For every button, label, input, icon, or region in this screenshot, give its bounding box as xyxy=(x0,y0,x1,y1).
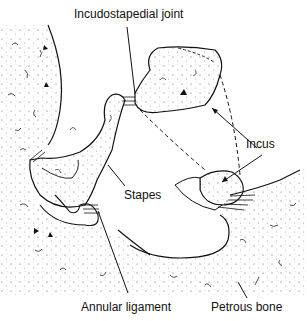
label-incudostapedial-joint: Incudostapedial joint xyxy=(74,8,183,20)
incus xyxy=(135,47,222,113)
label-stapes: Stapes xyxy=(124,189,161,201)
label-incus: Incus xyxy=(246,138,275,150)
label-annular-ligament: Annular ligament xyxy=(81,301,171,313)
leader-incudostapedial-joint xyxy=(127,27,135,94)
leader-stapes xyxy=(108,165,125,186)
middle-ear-diagram xyxy=(0,0,307,321)
leader-incus-lower xyxy=(222,155,262,182)
label-petrous-bone: Petrous bone xyxy=(211,301,282,313)
left-bone-wall xyxy=(0,25,62,175)
